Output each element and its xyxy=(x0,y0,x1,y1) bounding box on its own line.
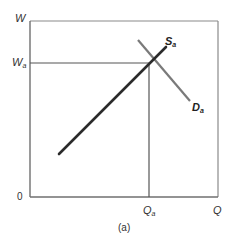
x-axis-label: Q xyxy=(213,205,222,216)
demand-curve-label: Da xyxy=(192,102,204,114)
chart-caption: (a) xyxy=(118,223,130,233)
wa-tick-label: Wa xyxy=(12,57,26,69)
y-axis-label: W xyxy=(15,13,25,24)
labor-market-chart: W Wa 0 Qa Q Sa Da (a) xyxy=(0,0,233,239)
chart-plot xyxy=(0,0,233,239)
qa-tick-label: Qa xyxy=(143,205,155,217)
origin-label: 0 xyxy=(17,192,23,202)
supply-curve-label: Sa xyxy=(165,36,176,48)
